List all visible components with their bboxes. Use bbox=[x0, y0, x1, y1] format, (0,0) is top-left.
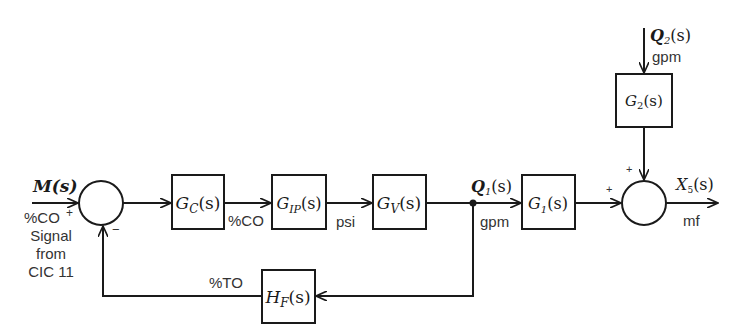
output-label: X5(s) bbox=[674, 175, 714, 195]
input-signal: M(s) %CO + Signal from CIC 11 bbox=[24, 176, 78, 280]
input-note-line-2: from bbox=[36, 245, 66, 262]
controller-block: GC(s) bbox=[172, 175, 224, 229]
process-1-block: G1(s) bbox=[522, 175, 575, 229]
valve-label: GV(s) bbox=[377, 193, 421, 216]
controller-output-unit: %CO bbox=[228, 212, 264, 229]
flow-2-label: Q2(s) bbox=[650, 26, 691, 46]
process-2-label: G2(s) bbox=[625, 92, 663, 111]
process-2-block: G2(s) bbox=[616, 74, 672, 127]
flow-1-unit: gpm bbox=[480, 213, 509, 230]
junction2-top-plus-sign: + bbox=[626, 163, 632, 175]
valve-block: GV(s) bbox=[373, 175, 426, 229]
junction1-minus-sign: − bbox=[112, 222, 120, 237]
output-unit: mf bbox=[683, 212, 700, 229]
junction2-left-plus-sign: + bbox=[606, 183, 612, 195]
summing-junction-2 bbox=[622, 181, 666, 225]
controller-label: GC(s) bbox=[176, 193, 221, 216]
summing-junction-1 bbox=[79, 181, 123, 225]
input-note-line-1: Signal bbox=[30, 227, 72, 244]
input-note-line-3: CIC 11 bbox=[28, 263, 74, 280]
transducer-output-unit: psi bbox=[336, 213, 355, 230]
input-label: M(s) bbox=[32, 176, 77, 196]
junction1-plus-sign: + bbox=[66, 206, 73, 220]
block-diagram: M(s) %CO + Signal from CIC 11 − GC(s) %C… bbox=[0, 0, 738, 336]
transducer-block: GIP(s) bbox=[272, 175, 326, 229]
flow-2-unit: gpm bbox=[652, 48, 681, 65]
process-1-label: G1(s) bbox=[528, 194, 568, 215]
disturbance-input: Q2(s) gpm bbox=[644, 26, 691, 73]
feedback-unit: %TO bbox=[209, 274, 243, 291]
flow-1-label: Q1(s) bbox=[471, 177, 512, 197]
input-unit: %CO bbox=[24, 209, 60, 226]
